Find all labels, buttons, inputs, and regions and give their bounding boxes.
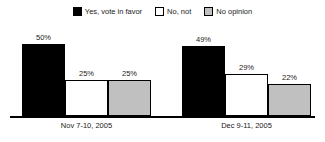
chart-legend: Yes, vote in favor No, not No opinion (0, 7, 325, 16)
bar-value-label: 25% (79, 70, 94, 78)
legend-item-no-opinion: No opinion (204, 7, 252, 16)
bar-dec-no-opinion (268, 84, 311, 116)
legend-label-no: No, not (167, 8, 191, 16)
bar-column-nov-no: 25% (65, 30, 108, 116)
category-label-dec-2005: Dec 9-11, 2005 (182, 122, 311, 130)
bar-value-label: 49% (196, 36, 211, 44)
legend-swatch-icon-no-opinion (204, 7, 213, 16)
bar-column-dec-yes: 49% (182, 30, 225, 116)
legend-swatch-icon-no (155, 7, 164, 16)
legend-swatch-icon-yes (73, 7, 82, 16)
x-axis-baseline (10, 116, 315, 118)
legend-label-yes: Yes, vote in favor (85, 8, 142, 16)
bar-column-nov-no-opinion: 25% (108, 30, 151, 116)
bar-dec-no (225, 74, 268, 116)
grouped-bar-chart: Yes, vote in favor No, not No opinion 50… (0, 0, 325, 142)
bar-nov-no-opinion (108, 80, 151, 116)
legend-item-yes-vote-in-favor: Yes, vote in favor (73, 7, 142, 16)
bar-dec-yes (182, 46, 225, 116)
bar-value-label: 25% (122, 70, 137, 78)
bar-value-label: 29% (239, 64, 254, 72)
bar-value-label: 22% (282, 74, 297, 82)
bar-group-dec-2005: 49% 29% 22% (182, 30, 311, 116)
legend-item-no-not: No, not (155, 7, 191, 16)
bar-value-label: 50% (36, 34, 51, 42)
plot-area: 50% 25% 25% 49% 29% 22% (0, 30, 325, 116)
bar-nov-no (65, 80, 108, 116)
bar-group-nov-2005: 50% 25% 25% (22, 30, 151, 116)
bar-column-dec-no: 29% (225, 30, 268, 116)
bar-column-dec-no-opinion: 22% (268, 30, 311, 116)
legend-label-no-opinion: No opinion (216, 8, 252, 16)
bar-nov-yes (22, 44, 65, 116)
category-label-nov-2005: Nov 7-10, 2005 (22, 122, 151, 130)
bar-column-nov-yes: 50% (22, 30, 65, 116)
